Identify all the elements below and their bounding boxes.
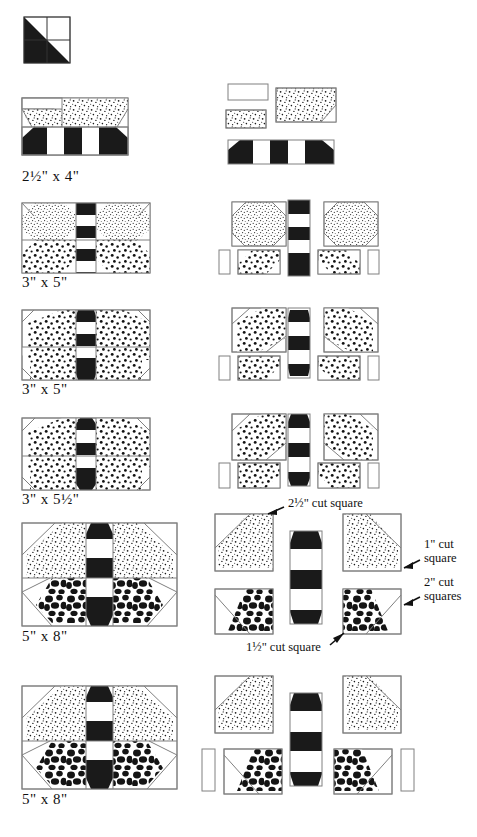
piece-meddot-rect-right [318, 250, 360, 274]
piece-small-light-right-r4 [368, 463, 379, 488]
piece-upper-wing-right-r5 [343, 514, 401, 571]
piece-light-rect-left-r6 [202, 749, 215, 791]
block-row-1-assembled [22, 98, 128, 155]
piece-lower-wing-right-r6 [334, 749, 392, 794]
pieces-row-1 [226, 84, 336, 164]
pieces-row-6 [202, 676, 414, 794]
piece-wing-square-left [232, 202, 286, 246]
piece-wing-square-right-r3 [324, 308, 378, 352]
size-label-row-5: 5" x 8" [22, 628, 68, 645]
size-label-row-4: 3" x 5½" [22, 491, 80, 508]
arrow-right-2 [404, 597, 420, 606]
piece-small-light-right [368, 250, 379, 274]
piece-body-strip-r6 [290, 693, 322, 786]
piece-wing-square-left-r4 [232, 414, 286, 460]
block-row-6-assembled [22, 686, 177, 789]
body-row-6 [86, 686, 113, 789]
piece-finedot-rect [226, 110, 266, 128]
body-row-5 [86, 523, 113, 626]
annotation-1in-line2: square [424, 551, 476, 565]
piece-body-strip-r5 [290, 531, 322, 624]
quilt-diagram-svg [0, 0, 477, 837]
piece-light-rect-right-r6 [401, 749, 414, 791]
annotation-cut-square-bottom: 1½" cut square [246, 640, 321, 654]
block-row-5-assembled [22, 523, 177, 626]
piece-body-strip-r3 [288, 308, 310, 378]
annotation-cut-square-top: 2½" cut square [288, 496, 363, 510]
size-label-row-1: 2½" x 4" [22, 168, 80, 185]
piece-meddot-rect-right-r3 [318, 356, 360, 380]
annotation-2in-line2: squares [424, 589, 476, 603]
piece-upper-wing-left-r5 [215, 514, 273, 571]
piece-meddot-rect-left-r4 [238, 463, 280, 488]
piece-small-light-left-r4 [219, 463, 230, 488]
size-label-row-2: 3" x 5" [22, 274, 68, 291]
block-row-3-assembled [22, 310, 150, 380]
piece-upper-wing-right-r6 [343, 676, 401, 733]
block-row-2-assembled [22, 203, 150, 273]
piece-upper-wing-left-r6 [215, 676, 273, 733]
body-row-4 [76, 418, 96, 490]
arrow-right-1 [404, 560, 420, 569]
block-row-4-assembled [22, 418, 150, 490]
body-row-3 [76, 310, 96, 380]
pieces-row-4 [219, 414, 379, 488]
diagram-canvas: 2½" x 4" 3" x 5" 3" x 5" 3" x 5½" 5" x 8… [0, 0, 477, 837]
size-label-row-3: 3" x 5" [22, 381, 68, 398]
piece-meddot-rect-left [238, 250, 280, 274]
key-block-four-patch [24, 17, 70, 63]
size-label-row-6: 5" x 8" [22, 791, 68, 808]
arrow-bottom [330, 633, 344, 645]
piece-lower-wing-left-r6 [224, 749, 282, 794]
piece-small-light-right-r3 [368, 356, 379, 380]
annotation-1in-line1: 1" cut [424, 537, 476, 551]
piece-meddot-rect-right-r4 [318, 463, 360, 488]
piece-wing-square-right-r4 [324, 414, 378, 460]
piece-body-strip-r4 [288, 414, 310, 486]
pieces-row-5 [215, 507, 420, 645]
piece-lower-wing-left-r5 [215, 589, 273, 634]
piece-finedot-large [276, 88, 336, 122]
piece-small-light-left-r3 [219, 356, 230, 380]
piece-body-strip [288, 200, 310, 276]
pieces-row-2 [219, 200, 379, 276]
piece-lower-wing-right-r5 [343, 589, 401, 634]
annotation-2in-cut-squares: 2" cut squares [424, 575, 476, 603]
piece-light-rect [228, 84, 268, 100]
piece-striped-body [228, 140, 334, 164]
annotation-1in-cut-square: 1" cut square [424, 537, 476, 565]
piece-wing-square-right [324, 202, 378, 246]
piece-meddot-rect-left-r3 [238, 356, 280, 380]
piece-wing-square-left-r3 [232, 308, 286, 352]
pieces-row-3 [219, 308, 379, 380]
arrow-top-annotation [268, 507, 284, 515]
annotation-2in-line1: 2" cut [424, 575, 476, 589]
piece-small-light-left [219, 250, 230, 274]
